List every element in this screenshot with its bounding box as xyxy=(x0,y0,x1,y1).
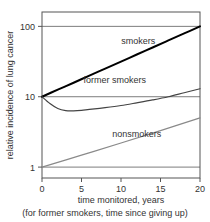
chart-container: 05101520 110100 smokersformer smokersnon… xyxy=(0,0,210,222)
y-axis-label: relative incidence of lung cancer xyxy=(5,31,15,160)
x-tick-label-10: 10 xyxy=(116,184,126,194)
lung-cancer-incidence-chart: 05101520 110100 smokersformer smokersnon… xyxy=(0,0,210,222)
series-label-nonsmokers: nonsmokers xyxy=(112,129,162,139)
x-tick-label-0: 0 xyxy=(39,184,44,194)
x-axis-note: (for former smokers, time since giving u… xyxy=(22,208,188,218)
x-tick-label-20: 20 xyxy=(195,184,205,194)
y-tick-labels: 110100 xyxy=(20,22,35,173)
x-axis-ticks xyxy=(42,178,200,182)
y-tick-label-100: 100 xyxy=(20,22,35,32)
series-label-smokers: smokers xyxy=(121,36,156,46)
y-tick-label-10: 10 xyxy=(25,92,35,102)
x-tick-label-5: 5 xyxy=(79,184,84,194)
x-tick-label-15: 15 xyxy=(155,184,165,194)
series-label-former-smokers: former smokers xyxy=(83,75,146,85)
x-axis-label: time monitored, years xyxy=(78,195,165,205)
y-tick-label-1: 1 xyxy=(30,163,35,173)
x-tick-labels: 05101520 xyxy=(39,184,205,194)
